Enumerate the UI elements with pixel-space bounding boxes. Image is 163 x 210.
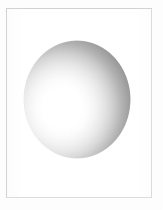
- figure-canvas: [0, 0, 163, 210]
- figure-plate-background: [7, 9, 151, 197]
- figure-frame-border: [6, 8, 152, 198]
- sphere-rim-shading: [23, 40, 131, 159]
- shaded-sphere-graphic: [23, 40, 131, 159]
- sphere-specular-highlight: [49, 92, 92, 135]
